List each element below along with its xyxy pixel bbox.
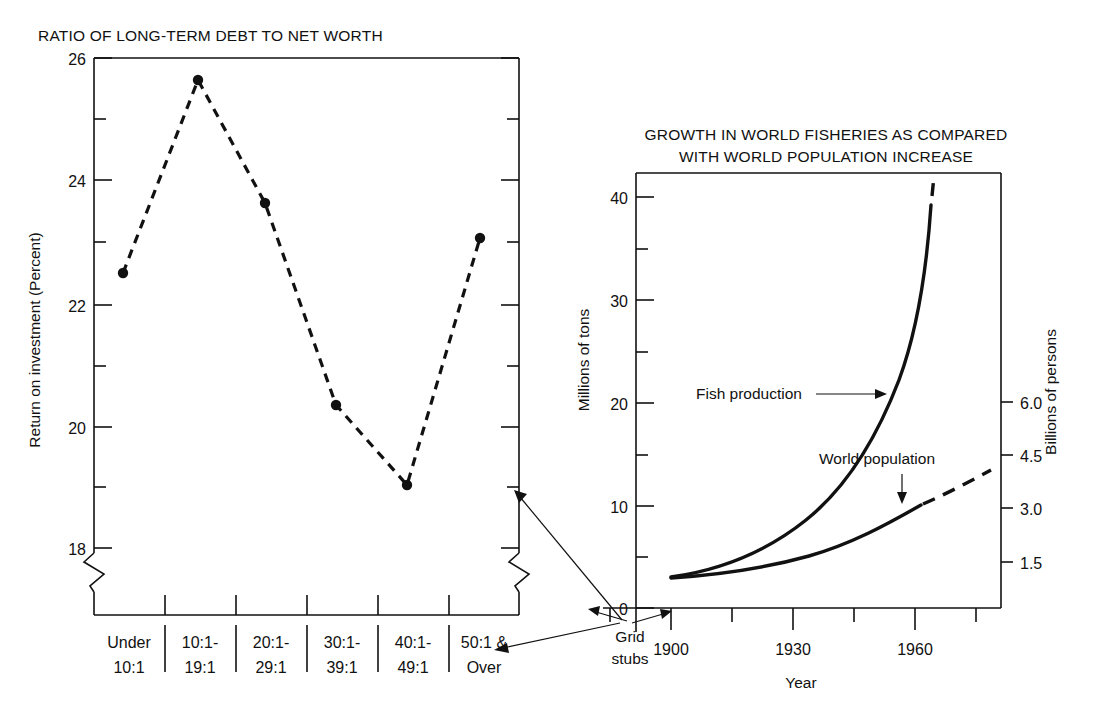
right-xtick-1960: 1960	[897, 641, 933, 658]
grid-stubs-arrow-1	[514, 490, 622, 620]
left-ytick-18: 18	[68, 541, 86, 558]
left-y-ticks	[94, 58, 519, 548]
left-cat-2-line2: 29:1	[255, 659, 286, 676]
left-series-markers	[118, 75, 485, 490]
grid-stubs-annotation: Grid stubs	[470, 480, 790, 680]
right-ytick-right-4.5: 4.5	[1020, 448, 1042, 465]
left-y-axis-label: Return on investment (Percent)	[26, 232, 43, 447]
figure-canvas: RATIO OF LONG-TERM DEBT TO NET WORTH Ret…	[0, 0, 1111, 715]
right-chart-title: GROWTH IN WORLD FISHERIES AS COMPARED WI…	[645, 126, 1008, 165]
grid-stubs-label-line2: stubs	[611, 650, 648, 667]
grid-stubs-arrow-4	[632, 609, 672, 623]
right-y-tick-labels-right: 1.5 3.0 4.5 6.0	[1020, 395, 1042, 572]
left-cat-3-line2: 39:1	[326, 659, 357, 676]
grid-stubs-arrow-2	[494, 623, 620, 653]
data-point	[402, 480, 412, 490]
right-ytick-right-3.0: 3.0	[1020, 501, 1042, 518]
left-ytick-22: 22	[68, 298, 86, 315]
left-series-line	[123, 80, 480, 485]
left-ytick-26: 26	[68, 51, 86, 68]
grid-stubs-arrow-3	[588, 606, 627, 621]
left-cat-0-line1: Under	[107, 634, 151, 651]
left-x-category-stubs	[165, 595, 449, 615]
series-fish-production-projection	[932, 176, 934, 196]
right-y-axis-label-right: Billions of persons	[1042, 329, 1059, 455]
grid-stubs-label-line1: Grid	[615, 628, 644, 645]
left-cat-4-line1: 40:1-	[395, 634, 431, 651]
data-point	[118, 268, 128, 278]
left-cat-1-line1: 10:1-	[182, 634, 218, 651]
series-world-population-projection	[923, 470, 991, 504]
right-chart-title-line1: GROWTH IN WORLD FISHERIES AS COMPARED	[645, 126, 1008, 143]
annotation-world-population-label: World population	[819, 450, 935, 467]
right-y-ticks-right	[1001, 402, 1013, 562]
left-plot-frame	[84, 58, 529, 615]
right-ytick-left-20: 20	[610, 396, 628, 413]
annotation-world-population-arrow	[897, 474, 907, 504]
left-cat-4-line2: 49:1	[397, 659, 428, 676]
left-cat-2-line1: 20:1-	[253, 634, 289, 651]
right-ytick-right-1.5: 1.5	[1020, 555, 1042, 572]
left-chart-title: RATIO OF LONG-TERM DEBT TO NET WORTH	[38, 27, 383, 44]
annotation-fish-production-arrow	[816, 389, 887, 399]
right-ytick-left-40: 40	[610, 190, 628, 207]
right-y-axis-label-left: Millions of tons	[575, 308, 592, 411]
left-ytick-20: 20	[68, 420, 86, 437]
left-ytick-24: 24	[68, 173, 86, 190]
right-x-axis-label: Year	[785, 674, 816, 691]
data-point	[260, 198, 270, 208]
right-ytick-left-30: 30	[610, 293, 628, 310]
left-cat-0-line2: 10:1	[113, 659, 144, 676]
left-cat-3-line1: 30:1-	[324, 634, 360, 651]
data-point	[475, 233, 485, 243]
data-point	[331, 400, 341, 410]
annotation-fish-production-label: Fish production	[696, 385, 802, 402]
left-cat-1-line2: 19:1	[184, 659, 215, 676]
right-ytick-right-6.0: 6.0	[1020, 395, 1042, 412]
data-point	[193, 75, 203, 85]
left-y-tick-labels: 26 24 22 20 18	[68, 51, 86, 558]
right-chart-title-line2: WITH WORLD POPULATION INCREASE	[679, 148, 973, 165]
